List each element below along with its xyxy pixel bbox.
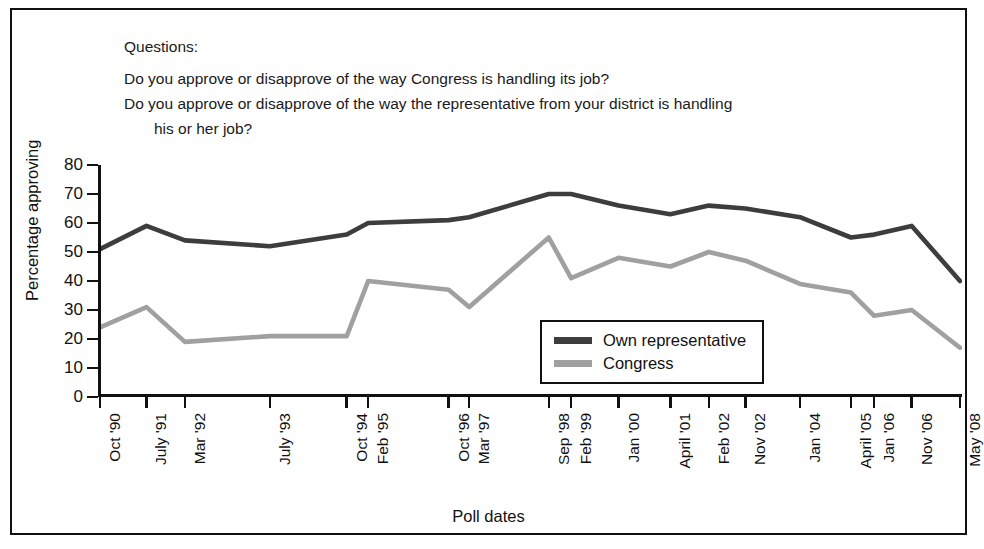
y-tick-label-30: 30 xyxy=(49,300,83,320)
x-tick xyxy=(910,397,913,408)
y-tick xyxy=(87,338,98,341)
x-tick xyxy=(548,397,551,408)
x-axis-line xyxy=(98,394,962,397)
x-tick xyxy=(744,397,747,408)
x-tick xyxy=(669,397,672,408)
x-tick xyxy=(269,397,272,408)
x-tick-label-5: Feb '95 xyxy=(374,413,392,464)
legend-label-own-representative: Own representative xyxy=(603,331,746,350)
x-tick-label-12: Feb '02 xyxy=(715,413,733,464)
x-tick-label-2: Mar '92 xyxy=(191,413,209,464)
y-tick-label-20: 20 xyxy=(49,329,83,349)
y-axis-line xyxy=(98,165,101,397)
questions-block: Questions: Do you approve or disapprove … xyxy=(124,34,914,141)
y-tick xyxy=(87,164,98,167)
figure-frame: Questions: Do you approve or disapprove … xyxy=(10,8,967,535)
x-axis-title: Poll dates xyxy=(12,507,965,526)
chart-legend: Own representative Congress xyxy=(540,320,764,384)
y-tick xyxy=(87,280,98,283)
legend-item-own-representative: Own representative xyxy=(554,329,746,352)
y-tick-label-70: 70 xyxy=(49,184,83,204)
x-tick xyxy=(708,397,711,408)
y-tick xyxy=(87,193,98,196)
y-tick-label-60: 60 xyxy=(49,213,83,233)
legend-swatch-own-representative xyxy=(554,337,592,344)
y-tick xyxy=(87,396,98,399)
y-tick-label-50: 50 xyxy=(49,242,83,262)
x-tick xyxy=(850,397,853,408)
x-tick-label-10: Jan '00 xyxy=(625,413,643,463)
series-line-congress xyxy=(100,238,960,348)
y-tick xyxy=(87,309,98,312)
x-tick xyxy=(99,397,102,408)
x-tick xyxy=(367,397,370,408)
x-tick-label-13: Nov '02 xyxy=(751,413,769,465)
x-tick xyxy=(799,397,802,408)
x-tick xyxy=(184,397,187,408)
y-tick-label-10: 10 xyxy=(49,358,83,378)
y-axis-title: Percentage approving xyxy=(23,140,42,301)
legend-swatch-congress xyxy=(554,360,592,367)
y-tick xyxy=(87,367,98,370)
x-tick-label-14: Jan '04 xyxy=(806,413,824,463)
x-tick xyxy=(617,397,620,408)
x-tick-label-1: July '91 xyxy=(152,413,170,465)
x-tick-label-0: Oct '90 xyxy=(106,413,124,462)
x-tick-label-17: Nov '06 xyxy=(918,413,936,465)
plot-area: 01020304050607080 Oct '90July '91Mar '92… xyxy=(98,165,962,397)
x-tick xyxy=(570,397,573,408)
x-tick-label-3: July '93 xyxy=(276,413,294,465)
y-tick xyxy=(87,222,98,225)
question-line-3: his or her job? xyxy=(124,116,914,141)
x-tick xyxy=(145,397,148,408)
series-lines xyxy=(98,165,962,397)
y-tick-label-40: 40 xyxy=(49,271,83,291)
x-tick-label-4: Oct '94 xyxy=(353,413,371,462)
x-tick-label-6: Oct '96 xyxy=(455,413,473,462)
x-tick xyxy=(468,397,471,408)
x-tick xyxy=(345,397,348,408)
y-tick xyxy=(87,251,98,254)
y-tick-label-80: 80 xyxy=(49,155,83,175)
x-tick-label-15: April '05 xyxy=(857,413,875,469)
x-tick xyxy=(873,397,876,408)
x-tick-label-7: Mar '97 xyxy=(475,413,493,464)
x-tick-label-9: Feb '99 xyxy=(577,413,595,464)
legend-label-congress: Congress xyxy=(603,354,674,373)
question-line-2: Do you approve or disapprove of the way … xyxy=(124,91,914,116)
series-line-own-representative xyxy=(100,194,960,281)
x-tick-label-16: Jan '06 xyxy=(880,413,898,463)
x-tick-label-11: April '01 xyxy=(676,413,694,469)
x-tick-label-18: May '08 xyxy=(966,413,984,467)
x-tick xyxy=(447,397,450,408)
x-tick-label-8: Sep '98 xyxy=(555,413,573,465)
y-tick-label-0: 0 xyxy=(49,387,83,407)
x-tick xyxy=(959,397,962,408)
question-line-1: Do you approve or disapprove of the way … xyxy=(124,66,914,91)
questions-heading: Questions: xyxy=(124,34,914,59)
legend-item-congress: Congress xyxy=(554,352,746,375)
